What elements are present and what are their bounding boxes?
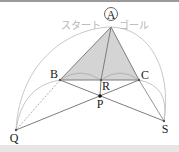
segment-b-q-dashed <box>16 80 60 130</box>
label-r: R <box>102 79 110 93</box>
segment-c-q <box>16 80 139 130</box>
triangle-abc <box>60 27 139 80</box>
segment-r-p <box>100 80 101 96</box>
point-b <box>59 79 61 81</box>
label-c: C <box>141 68 149 82</box>
segment-b-s <box>60 80 164 121</box>
label-b: B <box>50 67 58 81</box>
label-a: A <box>107 8 116 22</box>
label-s: S <box>162 122 169 136</box>
geometry-diagram: A スタート ゴール B C R P Q S <box>0 0 179 152</box>
goal-text: ゴール <box>119 19 149 31</box>
diagram-frame: A スタート ゴール B C R P Q S <box>0 0 179 152</box>
label-p: P <box>97 97 104 111</box>
point-c <box>138 79 140 81</box>
start-text: スタート <box>61 20 101 31</box>
segment-c-s <box>139 80 164 121</box>
label-q: Q <box>10 131 19 145</box>
